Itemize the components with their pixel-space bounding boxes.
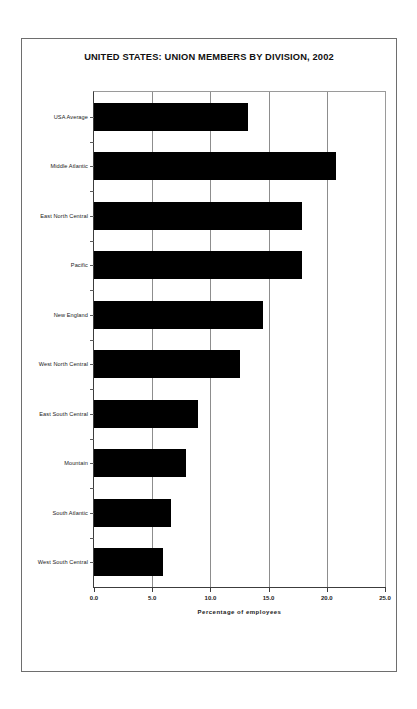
x-axis-title: Percentage of employees [93,609,386,615]
bar-row: USA Average [94,103,385,131]
bar [94,400,198,428]
bar [94,251,302,279]
chart-title: UNITED STATES: UNION MEMBERS BY DIVISION… [22,52,396,62]
x-tick-label: 15.0 [263,595,275,601]
bar-row: West South Central [94,548,385,576]
x-tick [94,587,95,592]
y-tick-minor [90,340,94,341]
x-tick-label: 20.0 [321,595,333,601]
category-label: Mountain [64,460,88,466]
y-tick [90,166,94,167]
bar-row: Pacific [94,251,385,279]
bar [94,548,163,576]
bar-row: East South Central [94,400,385,428]
bar-row: South Atlantic [94,499,385,527]
x-tick-label: 0.0 [90,595,98,601]
category-label: Middle Atlantic [50,163,88,169]
x-tick-label: 25.0 [379,595,391,601]
x-tick [269,587,270,592]
category-label: New England [54,312,88,318]
x-tick-label: 10.0 [205,595,217,601]
y-tick-minor [90,142,94,143]
y-tick-minor [90,488,94,489]
category-label: USA Average [54,114,88,120]
y-tick [90,463,94,464]
bar-row: New England [94,301,385,329]
y-tick-minor [90,389,94,390]
bar [94,103,248,131]
bar [94,449,186,477]
bar [94,301,263,329]
bar-row: East North Central [94,202,385,230]
y-tick [90,562,94,563]
bar [94,152,336,180]
figure-frame: UNITED STATES: UNION MEMBERS BY DIVISION… [21,38,397,672]
y-tick [90,265,94,266]
category-label: East South Central [39,411,88,417]
bar-row: Middle Atlantic [94,152,385,180]
y-tick-minor [90,191,94,192]
bar [94,202,302,230]
y-tick [90,216,94,217]
bar [94,499,171,527]
bar-series: USA AverageMiddle AtlanticEast North Cen… [94,92,385,587]
figure-page: UNITED STATES: UNION MEMBERS BY DIVISION… [0,0,417,709]
y-tick [90,315,94,316]
plot-area: USA AverageMiddle AtlanticEast North Cen… [93,91,386,588]
category-label: Pacific [71,262,88,268]
y-tick [90,117,94,118]
category-label: South Atlantic [52,510,88,516]
x-tick [210,587,211,592]
x-tick [152,587,153,592]
category-label: West North Central [39,361,88,367]
y-tick [90,513,94,514]
x-tick [385,587,386,592]
y-tick [90,414,94,415]
y-tick-minor [90,538,94,539]
y-tick-minor [90,439,94,440]
y-tick-minor [90,241,94,242]
y-tick [90,364,94,365]
x-tick [327,587,328,592]
bar [94,350,240,378]
y-tick-minor [90,290,94,291]
category-label: East North Central [40,213,88,219]
x-tick-label: 5.0 [148,595,156,601]
category-label: West South Central [38,559,88,565]
bar-row: Mountain [94,449,385,477]
bar-row: West North Central [94,350,385,378]
